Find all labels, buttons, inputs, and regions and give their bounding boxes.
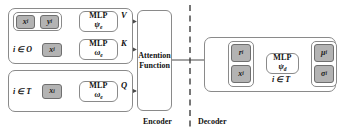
mlp-key-encoder-subscript: ωe [94, 49, 102, 58]
decoder-set-label: i ∈ T [272, 75, 290, 84]
chip-context-key-x[interactable]: xi [42, 43, 62, 58]
mlp-value-encoder[interactable]: MLP ψe [79, 11, 118, 32]
chip-output-mu-subscript: i [325, 50, 327, 56]
decoder-caption: Decoder [198, 117, 226, 126]
chip-target-query-x-subscript: i [53, 89, 55, 95]
chip-context-x-subscript: i [27, 19, 29, 25]
chip-context-y-subscript: i [51, 19, 53, 25]
mlp-query-encoder[interactable]: MLP ωe [79, 81, 118, 102]
mlp-value-encoder-index: e [100, 24, 102, 30]
mlp-decoder[interactable]: MLP ψd [266, 53, 299, 74]
context-set-label: i ∈ O [13, 45, 32, 54]
mlp-key-encoder-index: e [100, 52, 102, 58]
mlp-key-encoder[interactable]: MLP ωe [79, 39, 118, 60]
mlp-query-encoder-subscript: ωe [94, 91, 102, 100]
mlp-decoder-subscript: ψd [278, 63, 286, 72]
edge-label-query: Q [121, 80, 127, 90]
attention-function-line2: Function [139, 61, 170, 71]
encoder-caption: Encoder [143, 117, 172, 126]
attention-function-line1: Attention [138, 51, 170, 61]
mlp-query-encoder-index: e [100, 93, 102, 99]
edge-label-value: V [121, 10, 127, 20]
mlp-decoder-index: d [284, 65, 287, 71]
target-set-label: i ∈ T [13, 87, 31, 96]
chip-decoder-x-subscript: i [242, 71, 244, 77]
chip-output-sigma[interactable]: σi [314, 65, 334, 83]
chip-target-query-x[interactable]: xi [42, 84, 62, 99]
attention-function-box[interactable]: Attention Function [137, 10, 172, 111]
chip-decoder-r[interactable]: ri [231, 44, 251, 62]
chip-output-mu[interactable]: μi [314, 44, 334, 62]
chip-context-x[interactable]: xi [16, 15, 35, 29]
chip-decoder-x[interactable]: xi [231, 65, 251, 83]
chip-decoder-r-subscript: i [242, 50, 244, 56]
edge-label-key: K [121, 38, 127, 48]
chip-context-key-x-subscript: i [53, 47, 55, 53]
mlp-value-encoder-subscript: ψe [95, 21, 103, 30]
chip-output-sigma-subscript: i [325, 71, 327, 77]
chip-context-y[interactable]: yi [40, 15, 59, 29]
architecture-diagram: xi yi xi i ∈ O MLP ψe MLP ωe xi i ∈ T ML… [0, 0, 343, 133]
